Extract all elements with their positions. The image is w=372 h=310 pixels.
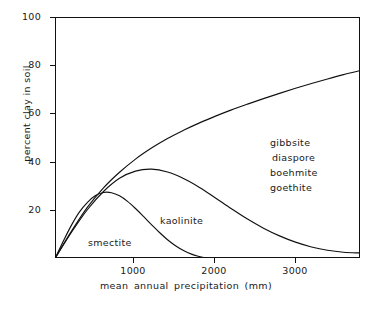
x-tick-label-3000: 3000 [282, 265, 307, 276]
y-tick-mark-40 [50, 162, 55, 163]
mineral-label-goethite: goethite [270, 182, 312, 193]
y-tick-label-20: 20 [28, 204, 41, 215]
curve-label-kaolinite: kaolinite [160, 215, 203, 226]
y-tick-label-100: 100 [22, 11, 41, 22]
x-axis-title: mean annual precipitation (mm) [100, 280, 272, 291]
soil-clay-mineralogy-chart: 100 80 60 40 20 1000 2000 3000 percent c… [0, 0, 372, 310]
y-tick-mark-100 [50, 17, 55, 18]
mineral-label-gibbsite: gibbsite [270, 137, 310, 148]
y-tick-mark-80 [50, 65, 55, 66]
x-tick-mark-1000 [133, 258, 134, 263]
y-tick-mark-20 [50, 210, 55, 211]
y-tick-mark-60 [50, 113, 55, 114]
x-tick-label-2000: 2000 [201, 265, 226, 276]
mineral-label-diaspore: diaspore [272, 152, 315, 163]
plot-frame [55, 17, 360, 258]
mineral-label-boehmite: boehmite [270, 167, 318, 178]
y-axis-title: percent clay in soil [21, 65, 32, 161]
x-tick-mark-2000 [214, 258, 215, 263]
x-tick-label-1000: 1000 [120, 265, 145, 276]
x-tick-mark-3000 [295, 258, 296, 263]
curve-label-smectite: smectite [88, 237, 132, 248]
